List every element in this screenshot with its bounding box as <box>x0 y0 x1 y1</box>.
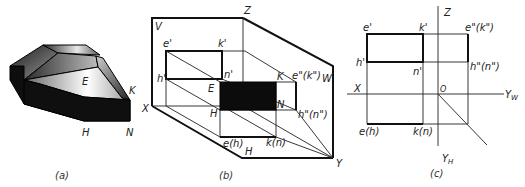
label-Z: Z <box>243 5 252 16</box>
label-E: E <box>82 76 89 87</box>
label-X: X <box>141 103 150 114</box>
label-e-prime: e' <box>163 38 172 49</box>
label-K: K <box>129 85 137 96</box>
label-n-prime: n' <box>224 69 233 80</box>
label-n-prime: n' <box>413 66 422 77</box>
label-h-prime: h' <box>356 57 365 68</box>
label-X: X <box>353 83 362 94</box>
label-Yw: YW <box>505 89 519 102</box>
label-E: E <box>208 83 215 94</box>
label-e-prime: e' <box>363 22 372 33</box>
label-h-prime: h' <box>157 73 166 84</box>
label-Yh: YH <box>442 153 454 166</box>
label-k-prime: k' <box>218 38 227 49</box>
label-k-n: k(n) <box>266 137 286 148</box>
label-e2-k2: e"(k") <box>292 70 321 81</box>
label-H: H <box>82 127 90 138</box>
label-h2-n2: h"(n") <box>298 109 328 120</box>
caption-c: (c) <box>430 168 443 179</box>
label-Y: Y <box>336 158 343 169</box>
label-N: N <box>277 99 285 110</box>
caption-a: (a) <box>55 170 69 181</box>
label-e2-k2: e"(k") <box>465 22 494 33</box>
caption-b: (b) <box>219 170 233 181</box>
label-H: H <box>210 108 218 119</box>
panel-b-projection-box <box>152 18 333 158</box>
label-Z: Z <box>443 7 452 18</box>
panel-a-solid <box>10 45 130 121</box>
label-H-plane: H <box>245 146 253 157</box>
projection-diagram: E K H N (a) V Z W <box>0 0 525 187</box>
label-k-prime: k' <box>419 22 428 33</box>
label-e-h: e(h) <box>359 126 379 137</box>
label-K: K <box>277 71 285 82</box>
label-W: W <box>322 73 333 84</box>
label-e-h: e(h) <box>223 138 243 149</box>
label-h2-n2: h"(n") <box>470 61 500 72</box>
label-V: V <box>155 21 163 32</box>
label-N: N <box>126 127 134 138</box>
label-k-n: k(n) <box>413 126 433 137</box>
label-O: O <box>440 85 446 94</box>
